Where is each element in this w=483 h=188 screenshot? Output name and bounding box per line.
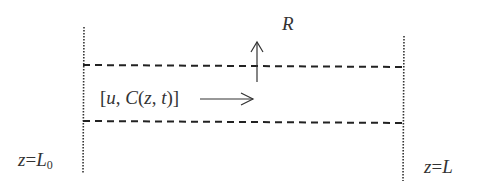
lower-wall-line bbox=[83, 121, 405, 123]
bracket-close: ] bbox=[173, 87, 179, 108]
inlet-subscript: 0 bbox=[47, 158, 53, 172]
outlet-L: L bbox=[442, 156, 453, 177]
inlet-eq: = bbox=[25, 149, 36, 170]
comma: , bbox=[116, 87, 126, 108]
concentration-symbol: C bbox=[125, 87, 138, 108]
outlet-label: z=L bbox=[424, 157, 453, 176]
upper-wall-line bbox=[83, 65, 405, 67]
z-symbol: z bbox=[144, 87, 151, 108]
flow-state-label: [u, C(z, t)] bbox=[100, 88, 179, 107]
diagram-canvas bbox=[0, 0, 483, 188]
right-boundary-line bbox=[403, 36, 404, 181]
radial-label: R bbox=[282, 14, 294, 33]
inlet-label: z=L0 bbox=[18, 150, 53, 171]
inlet-L: L bbox=[36, 149, 47, 170]
radial-arrow-icon bbox=[251, 42, 263, 82]
comma: , bbox=[152, 87, 162, 108]
outlet-eq: = bbox=[431, 156, 442, 177]
flow-arrow-icon bbox=[200, 93, 253, 105]
left-boundary-line bbox=[83, 27, 84, 173]
velocity-symbol: u bbox=[106, 87, 116, 108]
